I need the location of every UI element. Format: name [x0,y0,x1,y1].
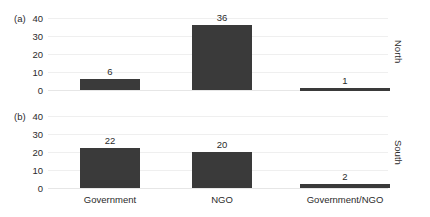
bar-value-south-government-ngo: 2 [300,172,390,182]
x-tick-government: Government [60,195,160,205]
bar-north-government-ngo[interactable] [300,88,390,90]
y-tick-south-20: 20 [32,148,43,158]
bar-value-south-government: 22 [80,136,140,146]
bar-value-north-government: 6 [80,67,140,77]
chart-panel-south: (b) 40 30 20 10 0 22 20 2 South Governm [0,98,430,217]
bar-north-ngo[interactable] [192,25,252,90]
bar-north-government[interactable] [80,79,140,90]
y-tick-south-30: 30 [32,130,43,140]
gridline-south-0 [48,188,388,189]
panel-tag-a: (a) [14,14,26,24]
bar-south-government[interactable] [80,148,140,188]
bar-south-ngo[interactable] [192,152,252,188]
y-tick-south-0: 0 [38,184,43,194]
panel-tag-b: (b) [14,112,26,122]
gridline-south-30 [48,134,388,135]
chart-panel-north: (a) 40 30 20 10 0 6 36 1 North [0,0,430,108]
bar-chart-figure: (a) 40 30 20 10 0 6 36 1 North [0,0,430,217]
bar-value-north-ngo: 36 [192,13,252,23]
bar-value-north-government-ngo: 1 [300,76,390,86]
y-tick-south-10: 10 [32,166,43,176]
y-tick-north-10: 10 [32,68,43,78]
region-label-north: North [394,40,404,63]
x-tick-government-ngo: Government/NGO [285,195,405,205]
x-tick-ngo: NGO [172,195,272,205]
y-tick-north-20: 20 [32,50,43,60]
region-label-south: South [394,140,404,165]
y-tick-north-0: 0 [38,86,43,96]
bar-value-south-ngo: 20 [192,140,252,150]
y-tick-north-30: 30 [32,32,43,42]
y-tick-north-40: 40 [32,14,43,24]
bar-south-government-ngo[interactable] [300,184,390,188]
y-tick-south-40: 40 [32,112,43,122]
gridline-south-40 [48,116,388,117]
